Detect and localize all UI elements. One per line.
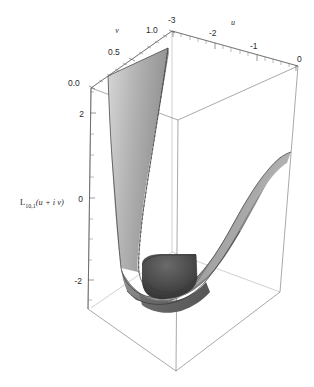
v-tick-label-0: 0.0 [68,78,80,88]
surface-left-wall [108,48,169,272]
z-axis-label-sub: 10,1 [25,203,36,209]
u-tick-label-m2: -2 [209,28,217,38]
u-axis [172,31,298,71]
surface-mesh [108,48,291,313]
u-tick-label-0: 0 [297,54,302,64]
z-axis [88,88,96,309]
v-tick-label-10: 1.0 [146,25,158,35]
v-axis-label: v [115,26,119,35]
z-tick-label-2: 2 [79,109,84,119]
svg-text:L10,1(u + i v): L10,1(u + i v) [20,197,64,209]
u-tick-label-m3: -3 [168,15,176,25]
z-tick-label-m2: -2 [74,276,82,286]
surface-plot-figure: 0.0 0.5 1.0 -3 -2 -1 0 2 0 -2 v u L10,1(… [0,0,314,387]
z-axis-label-arg: (u + i v) [36,197,64,207]
z-axis-label: L10,1(u + i v) [20,197,64,209]
u-axis-label: u [231,18,235,27]
surface-right-wing [194,152,291,287]
v-tick-label-05: 0.5 [108,47,120,57]
plot-canvas: 0.0 0.5 1.0 -3 -2 -1 0 2 0 -2 v u L10,1(… [0,0,314,387]
u-tick-label-m1: -1 [250,41,258,51]
z-tick-label-0: 0 [78,194,83,204]
